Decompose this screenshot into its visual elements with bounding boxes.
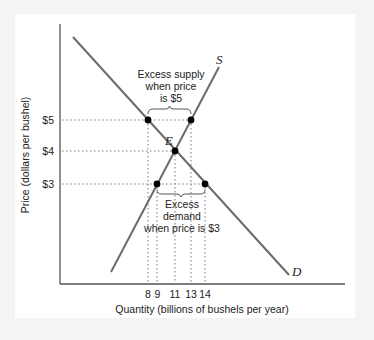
- excess-supply-line3: is $5: [160, 92, 182, 104]
- point-supply-p3: [154, 181, 161, 188]
- point-equilibrium: [172, 148, 179, 155]
- x-tick-11: 11: [170, 288, 181, 300]
- point-demand-p5: [145, 117, 152, 124]
- x-tick-8: 8: [145, 288, 151, 300]
- excess-demand-line1: Excess: [165, 198, 199, 210]
- x-tick-14: 14: [199, 288, 211, 300]
- excess-supply-line1: Excess supply: [137, 68, 205, 80]
- demand-label: D: [291, 264, 302, 279]
- excess-supply-line2: when price: [145, 80, 197, 92]
- x-tick-13: 13: [185, 288, 197, 300]
- y-tick-4: $4: [42, 145, 54, 157]
- y-tick-5: $5: [42, 114, 54, 126]
- supply-label: S: [216, 52, 223, 67]
- excess-supply-annotation: Excess supply when price is $5: [137, 68, 205, 104]
- excess-demand-brace: [157, 190, 205, 197]
- excess-supply-brace: [148, 106, 191, 114]
- excess-demand-line3: when price is $3: [143, 222, 220, 234]
- excess-demand-line2: demand: [163, 210, 201, 222]
- x-tick-9: 9: [155, 288, 161, 300]
- excess-demand-annotation: Excess demand when price is $3: [143, 198, 220, 234]
- equilibrium-label: E: [164, 133, 173, 148]
- point-demand-p3: [202, 181, 209, 188]
- supply-demand-chart: $5 $4 $3 8 9 11 13 14 Quantity (billions…: [0, 0, 374, 340]
- x-axis-label: Quantity (billions of bushels per year): [115, 303, 288, 315]
- y-tick-3: $3: [42, 178, 54, 190]
- y-axis-label: Price (dollars per bushel): [19, 97, 31, 214]
- point-supply-p5: [188, 117, 195, 124]
